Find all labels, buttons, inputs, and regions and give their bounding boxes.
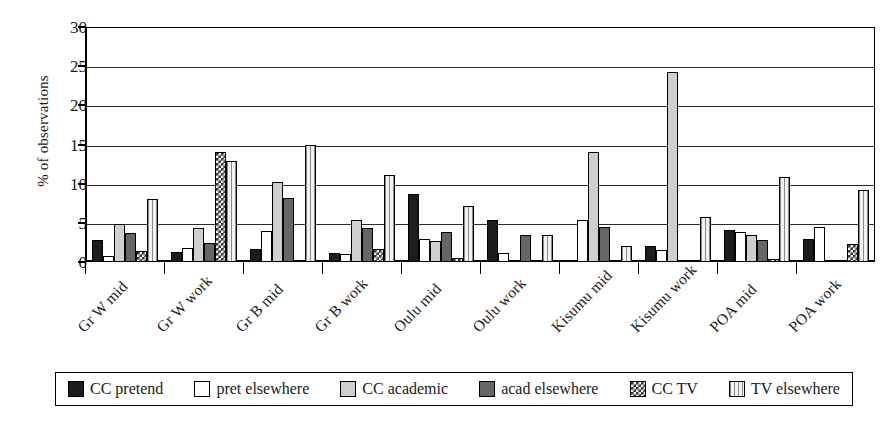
bar <box>757 240 768 262</box>
bar <box>430 241 441 262</box>
bar <box>419 239 430 263</box>
bar <box>92 240 103 262</box>
bar <box>656 250 667 262</box>
bar <box>215 152 226 262</box>
legend-swatch-icon <box>340 381 356 397</box>
x-axis-tick-mark <box>401 262 402 274</box>
bar <box>114 224 125 262</box>
bar <box>577 220 588 262</box>
legend-swatch-icon <box>479 381 495 397</box>
x-axis-tick-mark <box>638 262 639 274</box>
y-axis-tick-mark <box>78 144 85 146</box>
bar <box>261 231 272 262</box>
x-tick-cell <box>243 262 322 274</box>
x-axis-category-labels: Gr W midGr W workGr B midGr B workOulu m… <box>85 274 875 358</box>
y-axis-tick-mark <box>78 261 85 263</box>
x-axis-tick-mark <box>717 262 718 274</box>
bar <box>340 254 351 262</box>
x-axis-tick-mark <box>85 262 86 274</box>
bar <box>362 228 373 262</box>
legend-item-pret-elsewhere[interactable]: pret elsewhere <box>194 380 309 398</box>
legend-item-cc-academic[interactable]: CC academic <box>340 380 448 398</box>
bar <box>645 246 656 262</box>
x-label-cell: POA mid <box>717 274 796 358</box>
x-axis-tick-mark <box>559 262 560 274</box>
bar-group <box>796 27 875 262</box>
y-axis-tick-mark <box>78 65 85 67</box>
bar-group <box>85 27 164 262</box>
bar <box>136 251 147 262</box>
x-tick-cell <box>480 262 559 274</box>
bar-group <box>164 27 243 262</box>
legend-swatch-icon <box>194 381 210 397</box>
bar-group <box>717 27 796 262</box>
bar <box>542 235 553 262</box>
x-axis-label-kisumu-mid: Kisumu mid <box>548 267 616 336</box>
x-label-cell: Kisumu mid <box>559 274 638 358</box>
legend-label: pret elsewhere <box>216 380 309 398</box>
legend-item-cc-tv[interactable]: CC TV <box>630 380 698 398</box>
bar <box>847 244 858 262</box>
bar <box>384 175 395 262</box>
bar <box>204 243 215 262</box>
bar <box>779 177 790 262</box>
bar <box>621 246 632 262</box>
legend-item-acad-elsewhere[interactable]: acad elsewhere <box>479 380 598 398</box>
x-tick-cell <box>717 262 796 274</box>
bar <box>373 249 384 262</box>
bar <box>735 232 746 262</box>
bar-chart-figure: % of observations 051015202530 Gr W midG… <box>0 0 891 429</box>
bar <box>487 220 498 262</box>
x-axis-tick-mark <box>480 262 481 274</box>
y-axis-tick-mark <box>78 104 85 106</box>
bar <box>272 182 283 262</box>
legend-swatch-icon <box>729 381 745 397</box>
y-axis-tick-mark <box>78 26 85 28</box>
legend-label: CC TV <box>652 380 698 398</box>
legend-item-cc-pretend[interactable]: CC pretend <box>68 380 163 398</box>
x-tick-cell <box>85 262 164 274</box>
bar <box>803 239 814 262</box>
x-tick-cell <box>401 262 480 274</box>
bar <box>858 190 869 262</box>
bar-groups <box>85 27 875 262</box>
bar-group <box>322 27 401 262</box>
bar <box>147 199 158 262</box>
bar <box>329 253 340 262</box>
bar <box>667 72 678 262</box>
x-label-cell: POA work <box>796 274 875 358</box>
bar <box>283 198 294 262</box>
bar <box>250 249 261 262</box>
bar <box>520 235 531 262</box>
x-axis-tick-mark <box>796 262 797 274</box>
bar <box>193 228 204 262</box>
bar <box>588 152 599 262</box>
x-label-cell: Oulu mid <box>401 274 480 358</box>
bar <box>498 253 509 262</box>
bar <box>351 220 362 262</box>
x-label-cell: Oulu work <box>480 274 559 358</box>
bar <box>408 194 419 262</box>
x-label-cell: Gr W mid <box>85 274 164 358</box>
bar <box>599 227 610 262</box>
legend-label: acad elsewhere <box>501 380 598 398</box>
x-tick-cell <box>796 262 875 274</box>
y-axis-tick-mark <box>78 183 85 185</box>
x-axis-tick-mark <box>322 262 323 274</box>
x-label-cell: Kisumu work <box>638 274 717 358</box>
legend-label: TV elsewhere <box>751 380 840 398</box>
bar <box>226 161 237 262</box>
bar-group <box>559 27 638 262</box>
legend-item-tv-elsewhere[interactable]: TV elsewhere <box>729 380 840 398</box>
legend-swatch-icon <box>630 381 646 397</box>
bar <box>171 252 182 262</box>
x-label-cell: Gr B mid <box>243 274 322 358</box>
bar <box>182 248 193 262</box>
bar <box>305 145 316 262</box>
x-tick-cell <box>322 262 401 274</box>
bar <box>441 232 452 262</box>
x-label-cell: Gr B work <box>322 274 401 358</box>
x-label-cell: Gr W work <box>164 274 243 358</box>
y-axis-tick-mark <box>78 222 85 224</box>
bar-group <box>401 27 480 262</box>
